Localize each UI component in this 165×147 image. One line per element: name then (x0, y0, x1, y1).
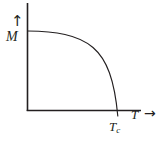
figure-container: ↑ M T → Tc (0, 0, 165, 147)
magnetization-curve (28, 31, 118, 116)
right-arrow-icon: → (144, 106, 156, 120)
axes-group (27, 3, 141, 111)
up-arrow-icon: ↑ (11, 14, 24, 29)
x-axis-label: T (131, 108, 138, 121)
critical-temperature-label: Tc (109, 120, 120, 135)
phase-diagram-plot (0, 0, 165, 147)
curve-group (28, 31, 118, 116)
y-axis-label: M (6, 30, 18, 44)
critical-temperature-subscript: c (116, 125, 120, 135)
